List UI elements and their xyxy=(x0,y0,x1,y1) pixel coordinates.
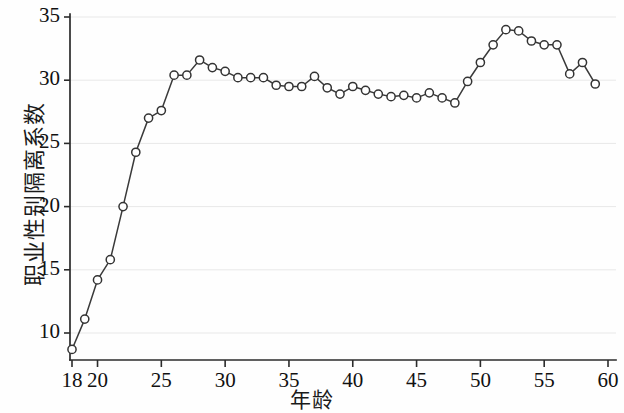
chart-figure: 职业性别隔离系数 年龄 101520253035 182025303540455… xyxy=(0,0,624,413)
axis-lines xyxy=(70,14,616,360)
data-point-markers xyxy=(68,26,599,354)
grid-lines xyxy=(70,17,616,333)
plot-area xyxy=(0,0,624,413)
data-line-series xyxy=(72,30,595,350)
y-axis-ticks xyxy=(64,17,70,333)
x-axis-ticks xyxy=(72,360,608,367)
